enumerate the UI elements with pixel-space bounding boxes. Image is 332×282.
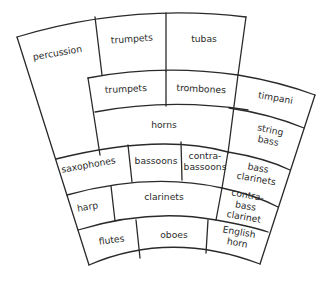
label-tubas: tubas (191, 33, 217, 44)
svg-text:contra-: contra- (189, 150, 222, 161)
svg-text:bassoons: bassoons (184, 161, 227, 172)
label-trumpets-back: trumpets (110, 32, 153, 46)
label-bassoons: bassoons (135, 155, 178, 166)
label-oboes: oboes (160, 229, 188, 240)
label-harp: harp (76, 199, 99, 214)
orchestra-seating-diagram: percussion trumpets tubas trumpets tromb… (0, 0, 332, 282)
label-string-bass: string bass (254, 122, 284, 149)
svg-text:horn: horn (226, 235, 249, 249)
label-saxophones: saxophones (60, 154, 116, 174)
label-timpani: timpani (257, 89, 293, 106)
label-trombones: trombones (176, 82, 226, 96)
svg-text:clarinets: clarinets (236, 170, 277, 188)
label-contrabass-clarinet: contra- bass clarinet (226, 186, 266, 225)
label-clarinets: clarinets (144, 191, 184, 202)
label-percussion: percussion (32, 43, 83, 62)
label-horns: horns (151, 119, 177, 130)
label-english-horn: English horn (220, 223, 257, 250)
label-trumpets-front: trumpets (105, 82, 148, 95)
label-flutes: flutes (98, 232, 125, 246)
label-contrabassoons: contra- bassoons (184, 150, 227, 172)
